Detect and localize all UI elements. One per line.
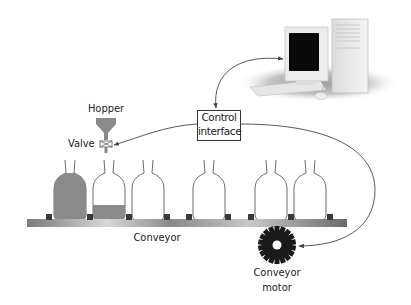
- bottle-empty: [294, 160, 326, 220]
- computer: [236, 19, 400, 102]
- conveyor-motor-label-line2: motor: [262, 281, 292, 294]
- gear-icon: [258, 226, 296, 264]
- bottles: [54, 160, 326, 220]
- monitor-screen: [289, 33, 319, 71]
- bottle-full: [54, 160, 86, 220]
- link-control-to-motor: [240, 124, 375, 246]
- valve-label: Valve: [68, 137, 95, 150]
- bottle-empty: [132, 160, 164, 220]
- diagram-canvas: [0, 0, 411, 305]
- computer-tower: [332, 19, 368, 93]
- monitor-stand: [296, 81, 316, 85]
- conveyor-pegs: [46, 214, 333, 220]
- hopper: [96, 118, 116, 140]
- control-interface-line1: Control: [198, 111, 240, 125]
- bottle-empty: [193, 160, 225, 220]
- bottle-empty: [255, 160, 287, 220]
- control-interface-line2: interface: [198, 125, 240, 139]
- conveyor-label: Conveyor: [133, 231, 180, 244]
- hopper-label: Hopper: [88, 102, 124, 115]
- control-interface-box: Control interface: [197, 110, 241, 141]
- bottle-partial: [93, 160, 125, 220]
- conveyor-motor-label-line1: Conveyor: [253, 266, 300, 279]
- valve-icon: [100, 141, 112, 153]
- mouse: [315, 93, 327, 100]
- link-control-to-valve: [114, 124, 197, 145]
